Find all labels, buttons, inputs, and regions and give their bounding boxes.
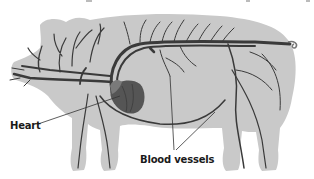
heart-label: Heart xyxy=(10,120,41,131)
pig-circulatory-diagram xyxy=(0,0,314,179)
blood-vessels-label: Blood vessels xyxy=(140,154,214,165)
clipped-caption-remnant xyxy=(86,0,310,2)
